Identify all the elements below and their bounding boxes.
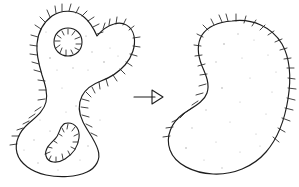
figure-canvas: Deformation of a genus-two spiky blob in… <box>0 0 299 187</box>
shape-deformation-diagram <box>0 0 299 187</box>
